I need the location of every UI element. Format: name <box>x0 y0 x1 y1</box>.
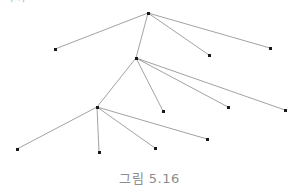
tree-node-leaf <box>16 148 19 151</box>
tree-node-leaf <box>162 110 165 113</box>
tree-edge <box>136 58 228 107</box>
tree-edge <box>55 13 148 49</box>
tree-node-leaf <box>227 106 230 109</box>
tree-edge <box>136 13 148 58</box>
tree-node-leaf <box>284 109 287 112</box>
tree-edge <box>148 13 209 55</box>
tree-edge <box>97 107 155 148</box>
tree-node-internal <box>147 12 150 15</box>
tree-edge <box>148 13 270 48</box>
tree-node-leaf <box>206 138 209 141</box>
node-layer <box>16 12 287 154</box>
edge-layer <box>17 13 285 152</box>
tree-node-internal <box>135 57 138 60</box>
tree-node-leaf <box>208 54 211 57</box>
tree-edge <box>97 58 136 107</box>
tree-node-leaf <box>98 151 101 154</box>
tree-node-internal <box>96 106 99 109</box>
figure-container: 쪽 가 그림 5.16 <box>0 0 299 192</box>
figure-caption: 그림 5.16 <box>0 171 299 187</box>
tree-node-leaf <box>54 48 57 51</box>
tree-node-leaf <box>269 47 272 50</box>
tree-diagram <box>0 0 299 192</box>
tree-edge <box>97 107 207 139</box>
tree-node-leaf <box>154 147 157 150</box>
tree-edge <box>97 107 99 152</box>
tree-edge <box>17 107 97 149</box>
